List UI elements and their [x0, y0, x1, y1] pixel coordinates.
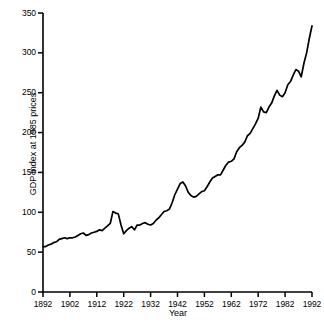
y-axis-title: GDP index at 1985 prices [28, 64, 38, 224]
y-tick-label: 0 [3, 287, 36, 297]
chart-plot-area [0, 0, 324, 327]
axes-lines [43, 13, 312, 292]
chart-figure: 050100150200250300350 189219021912192219… [0, 0, 324, 327]
gdp-index-line [43, 26, 312, 247]
y-tick-label: 50 [3, 247, 36, 257]
y-tick-label: 350 [3, 8, 36, 18]
y-tick-label: 300 [3, 47, 36, 57]
x-axis-title: Year [43, 308, 313, 318]
